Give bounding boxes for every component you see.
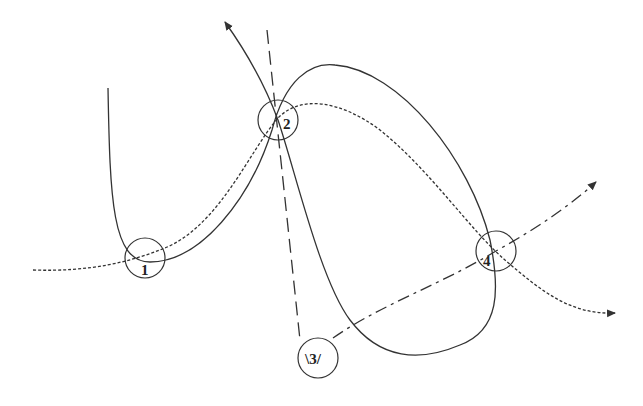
node-3-label: \3/: [304, 351, 322, 367]
solid-loop-curve: [108, 22, 496, 355]
curve-diagram: 1 2 \3/ 4: [0, 0, 643, 406]
node-1: 1: [125, 238, 165, 278]
dotted-curve: [33, 104, 615, 313]
node-1-label: 1: [141, 262, 149, 278]
dash-dot-curve: [333, 182, 596, 338]
long-dash-line: [267, 30, 300, 340]
node-2-label: 2: [283, 116, 291, 132]
node-3: \3/: [298, 338, 338, 378]
node-4-label: 4: [483, 253, 491, 269]
